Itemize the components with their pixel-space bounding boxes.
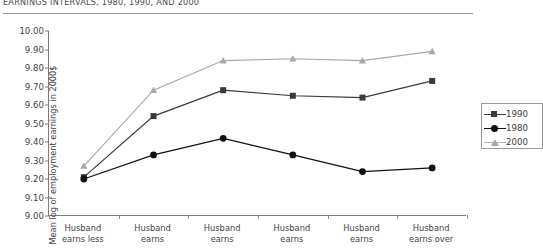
data-point-1980: [429, 165, 436, 172]
y-axis-tick-label: 9.90: [7, 45, 49, 55]
y-axis-tick-label: 9.80: [7, 63, 49, 73]
data-point-2000: [150, 87, 157, 93]
data-point-1980: [220, 135, 227, 142]
legend-item-1990[interactable]: 1990: [484, 107, 542, 121]
y-axis-tick-label: 10.00: [7, 26, 49, 36]
y-axis-tick-label: 9.30: [7, 156, 49, 166]
legend-label: 2000: [506, 137, 528, 147]
x-axis-tick-label: Husbandearns over: [388, 223, 474, 244]
y-axis-tick-label: 9.20: [7, 174, 49, 184]
data-point-2000: [429, 48, 436, 54]
data-point-1990: [290, 93, 296, 99]
data-point-1990: [360, 95, 366, 101]
y-axis-tick-label: 9.10: [7, 193, 49, 203]
data-point-1980: [80, 176, 87, 183]
figure-title: EARNINGS INTERVALS, 1980, 1990, AND 2000: [3, 0, 523, 7]
x-axis-label-line: Husband: [388, 223, 474, 234]
y-axis-tick-label: 9.50: [7, 119, 49, 129]
circle-marker-icon: [484, 122, 506, 134]
series-line-1980: [84, 138, 432, 179]
y-axis-tick-label: 9.60: [7, 100, 49, 110]
legend-item-1980[interactable]: 1980: [484, 121, 542, 135]
x-axis-tick-mark: [467, 215, 468, 219]
legend: 1990 1980 2000: [481, 103, 543, 149]
data-point-1990: [151, 113, 157, 119]
data-point-1990: [220, 87, 226, 93]
x-axis-label-line: earns over: [388, 234, 474, 245]
plot-area: Mean log of employment earnings in 2000$…: [48, 31, 466, 216]
legend-label: 1990: [506, 109, 528, 119]
y-axis-tick-label: 9.00: [7, 211, 49, 221]
series-line-1990: [84, 81, 432, 177]
legend-label: 1980: [506, 123, 528, 133]
data-point-1980: [289, 152, 296, 159]
triangle-marker-icon: [484, 136, 506, 148]
y-axis-tick-label: 9.40: [7, 137, 49, 147]
y-axis-tick-label: 9.70: [7, 82, 49, 92]
title-divider: [3, 13, 473, 14]
legend-item-2000[interactable]: 2000: [484, 135, 542, 149]
data-point-1980: [359, 168, 366, 175]
data-point-1980: [150, 152, 157, 159]
square-marker-icon: [484, 108, 506, 120]
data-point-1990: [429, 78, 435, 84]
series-line-2000: [84, 51, 432, 166]
series-layer: [49, 31, 467, 216]
